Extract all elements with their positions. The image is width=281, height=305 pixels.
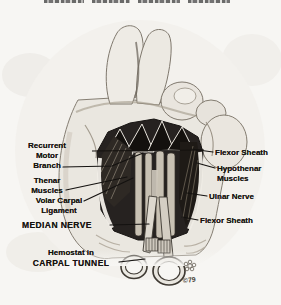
label-line: Muscles [217,174,261,184]
label-line: Thenar [19,176,75,186]
label-flexor-sheath-lower: Flexor Sheath [200,216,253,226]
label-line: Recurrent [19,141,75,151]
label-median-nerve: MEDIAN NERVE [22,220,92,230]
label-recurrent-motor-branch: Recurrent Motor Branch [19,141,75,171]
label-line: Motor [19,151,75,161]
label-thenar-muscles: Thenar Muscles [19,176,75,196]
label-line: Hemostat in [24,248,118,258]
label-line: Ligament [24,206,94,216]
label-line: CARPAL TUNNEL [24,258,118,268]
label-line: Volar Carpal [24,196,94,206]
label-flexor-sheath-upper: Flexor Sheath [215,148,268,158]
label-line: Hypothenar [217,164,261,174]
scanned-figure-page: ©79 Recurrent Motor Branch Thenar Muscle… [0,0,281,305]
label-hypothenar-muscles: Hypothenar Muscles [217,164,261,184]
label-volar-carpal-ligament: Volar Carpal Ligament [24,196,94,216]
label-hemostat-carpal-tunnel: Hemostat in CARPAL TUNNEL [24,248,118,268]
artist-signature: ©79 [182,276,196,284]
label-ulnar-nerve: Ulnar Nerve [209,192,254,202]
label-line: Branch [19,161,75,171]
label-line: Muscles [19,186,75,196]
